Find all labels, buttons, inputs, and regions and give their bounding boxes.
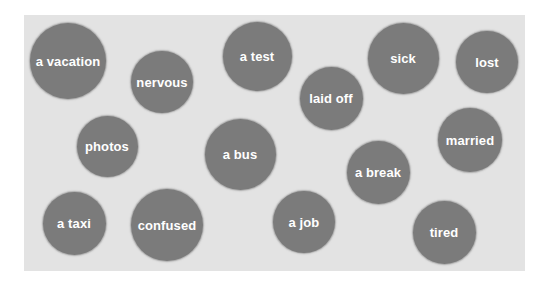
bubble-label: a job [289, 215, 320, 230]
bubble-label: photos [85, 139, 129, 154]
bubble-lost[interactable]: lost [456, 31, 518, 93]
bubble-a-job[interactable]: a job [273, 191, 335, 253]
bubble-label: a test [240, 49, 275, 64]
bubble-label: a bus [223, 147, 257, 162]
bubble-sick[interactable]: sick [368, 23, 439, 94]
bubble-photos[interactable]: photos [77, 116, 138, 177]
bubble-label: confused [138, 218, 197, 233]
bubble-label: sick [390, 51, 416, 66]
bubble-a-vacation[interactable]: a vacation [30, 23, 106, 99]
bubble-label: a taxi [57, 216, 91, 231]
bubble-married[interactable]: married [438, 108, 502, 172]
bubble-label: a vacation [36, 54, 101, 69]
bubble-label: laid off [309, 91, 352, 106]
bubble-label: lost [475, 55, 499, 70]
bubble-a-taxi[interactable]: a taxi [43, 192, 106, 255]
bubble-nervous[interactable]: nervous [131, 51, 193, 113]
bubble-laid-off[interactable]: laid off [300, 67, 363, 130]
bubble-a-bus[interactable]: a bus [205, 119, 276, 190]
bubble-label: nervous [136, 75, 187, 90]
bubble-label: a break [355, 165, 401, 180]
bubble-a-test[interactable]: a test [223, 22, 292, 91]
bubble-tired[interactable]: tired [413, 201, 476, 264]
bubble-confused[interactable]: confused [131, 189, 203, 261]
bubble-label: tired [430, 225, 459, 240]
bubble-label: married [446, 133, 494, 148]
bubble-a-break[interactable]: a break [347, 141, 410, 204]
